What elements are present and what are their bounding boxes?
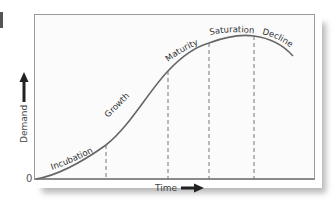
phase-boundaries: [106, 36, 254, 179]
y-axis-label: Demand: [19, 107, 29, 143]
x-axis-label: Time: [155, 183, 177, 193]
label-decline: Decline: [261, 26, 295, 49]
label-incubation: Incubation: [49, 145, 94, 172]
x-axis-arrow-icon: [181, 184, 204, 193]
demand-curve-plot: Incubation Growth Maturity Saturation De…: [0, 0, 334, 204]
y-axis-arrow-icon: [20, 72, 29, 102]
origin-label: 0: [26, 173, 32, 184]
label-growth: Growth: [102, 90, 131, 119]
